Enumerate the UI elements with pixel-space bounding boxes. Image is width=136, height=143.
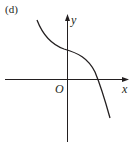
- y-axis-arrow-icon: [65, 14, 70, 21]
- function-curve: [37, 20, 110, 118]
- y-axis-label: y: [71, 14, 76, 26]
- origin-label: O: [55, 83, 64, 95]
- x-axis-label: x: [122, 83, 127, 95]
- panel-label: (d): [5, 4, 18, 15]
- graph-canvas: [0, 0, 136, 143]
- graph-figure: (d) y x O: [0, 0, 136, 143]
